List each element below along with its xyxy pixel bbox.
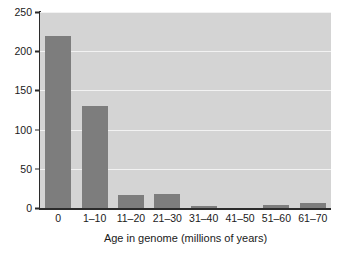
y-tick-mark: [35, 51, 39, 53]
y-axis-tick-labels: 050100150200250: [0, 0, 36, 259]
y-tick-mark: [35, 168, 39, 170]
bar-slot: [295, 12, 331, 208]
x-tick-label: 41–50: [222, 212, 258, 228]
bar: [300, 203, 326, 208]
y-tick-label: 50: [20, 163, 32, 175]
y-tick-label: 200: [14, 45, 32, 57]
bar-slot: [40, 12, 76, 208]
bar: [154, 194, 180, 208]
x-tick-label: 11–20: [113, 212, 149, 228]
y-tick-mark: [35, 208, 39, 210]
bar-slot: [258, 12, 294, 208]
y-tick-label: 250: [14, 6, 32, 18]
x-axis-tick-labels: 01–1011–2021–3031–4041–5051–6061–70: [40, 212, 331, 228]
y-tick-mark: [35, 129, 39, 131]
bar-slot: [149, 12, 185, 208]
x-tick-label: 31–40: [186, 212, 222, 228]
x-tick-label: 0: [40, 212, 76, 228]
bar: [263, 205, 289, 208]
bar: [45, 36, 71, 208]
x-tick-label: 21–30: [149, 212, 185, 228]
bar-slot: [222, 12, 258, 208]
bar-slot: [186, 12, 222, 208]
bar: [82, 106, 108, 208]
x-axis-title: Age in genome (millions of years): [40, 232, 331, 244]
bar-series: [40, 12, 331, 208]
plot-panel: [40, 12, 331, 208]
bar-slot: [76, 12, 112, 208]
x-tick-label: 51–60: [258, 212, 294, 228]
bar-slot: [113, 12, 149, 208]
x-tick-label: 61–70: [295, 212, 331, 228]
y-tick-label: 100: [14, 124, 32, 136]
y-tick-mark: [35, 12, 39, 14]
bar: [191, 206, 217, 208]
bar-chart-figure: Acquired DNA (kb) 050100150200250 01–101…: [0, 0, 355, 259]
y-tick-label: 150: [14, 84, 32, 96]
y-tick-label: 0: [26, 202, 32, 214]
y-tick-mark: [35, 90, 39, 92]
bar: [118, 195, 144, 208]
x-axis-line: [39, 208, 331, 210]
x-tick-label: 1–10: [76, 212, 112, 228]
